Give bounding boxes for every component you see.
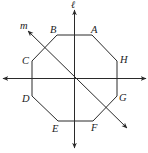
- vertex-label-d: D: [21, 93, 30, 104]
- vertex-label-c: C: [22, 55, 30, 66]
- vertex-label-e: E: [51, 123, 59, 134]
- diagonal-line-m: [28, 31, 127, 128]
- vertex-label-b: B: [50, 24, 57, 35]
- octagon-symmetry-diagram: ℓ m A B C D E F G H: [0, 0, 148, 153]
- line-m-label: m: [20, 20, 28, 31]
- vertex-label-g: G: [119, 92, 127, 103]
- vertex-label-f: F: [90, 122, 98, 133]
- vertex-label-h: H: [119, 54, 129, 65]
- vertex-label-a: A: [90, 24, 98, 35]
- line-l-label: ℓ: [71, 0, 75, 10]
